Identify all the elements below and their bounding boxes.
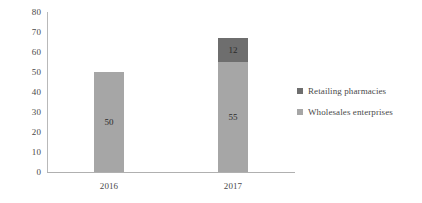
y-axis-tick-label: 30 [0,108,41,117]
legend-swatch-icon [297,109,303,115]
bar-segment-2016-0: 50 [94,72,124,172]
legend-item[interactable]: Retailing pharmacies [297,80,421,101]
legend-label: Retailing pharmacies [308,86,386,96]
y-axis-tick-label: 50 [0,68,41,77]
bar-segment-2017-0: 55 [218,62,248,172]
y-axis-line [47,12,48,172]
x-axis-category-label: 2016 [79,181,139,191]
legend-swatch-icon [297,88,303,94]
bar-value-label: 12 [218,45,248,55]
y-axis-tick-label: 10 [0,148,41,157]
bar-value-label: 50 [94,117,124,127]
y-axis-tick-label: 70 [0,28,41,37]
y-axis-tick-label: 60 [0,48,41,57]
legend-label: Wholesales enterprises [308,107,393,117]
x-axis-category-label: 2017 [203,181,263,191]
legend-item[interactable]: Wholesales enterprises [297,101,421,122]
bar-2016: 50 [94,72,124,172]
bar-segment-2017-1: 12 [218,38,248,62]
y-axis-tick-label: 0 [0,168,41,177]
bar-2017: 5512 [218,38,248,172]
y-axis-tick-label: 80 [0,8,41,17]
chart-legend: Retailing pharmaciesWholesales enterpris… [297,80,421,122]
stacked-bar-chart: 01020304050607080 20162017 505512 Retail… [0,0,422,203]
y-axis-tick-label: 40 [0,88,41,97]
bar-value-label: 55 [218,112,248,122]
y-axis-tick-label: 20 [0,128,41,137]
x-axis-line [47,172,295,173]
